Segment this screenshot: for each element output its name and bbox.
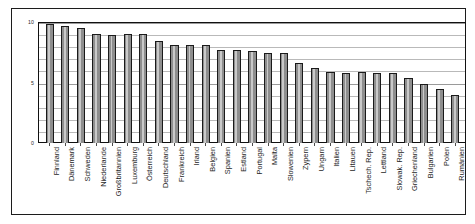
tick-mark (455, 143, 456, 146)
y-tick-label: 10 (28, 19, 34, 25)
x-axis-category-label: Spanien (225, 120, 232, 147)
x-label-slot: Großbritannien (104, 147, 120, 221)
x-label-slot: Zypern (292, 147, 308, 221)
x-label-slot: Slowak. Rep. (385, 147, 401, 221)
x-label-slot: Malta (260, 147, 276, 221)
x-axis-labels: FinnlandDänemarkSchwedenNiederlandeGroßb… (38, 147, 466, 221)
x-axis-category-label: Slowak. Rep. (396, 103, 403, 147)
tick-mark (158, 143, 159, 146)
y-tick-label: 5 (31, 80, 34, 86)
tick-mark (112, 143, 113, 146)
x-axis-category-label: Litauen (349, 123, 356, 147)
x-label-slot: Frankreich (167, 147, 183, 221)
x-label-slot: Luxemburg (120, 147, 136, 221)
x-label-slot: Dänemark (58, 147, 74, 221)
tick-mark (252, 143, 253, 146)
x-axis-category-label: Italien (334, 127, 341, 147)
x-axis-category-label: Lettland (380, 121, 387, 147)
x-label-slot: Finnland (42, 147, 58, 221)
x-label-slot: Slowenien (276, 147, 292, 221)
tick-mark (143, 143, 144, 146)
tick-mark (346, 143, 347, 146)
x-label-slot: Polen (432, 147, 448, 221)
tick-mark (377, 143, 378, 146)
x-label-slot: Estland (229, 147, 245, 221)
tick-mark (439, 143, 440, 146)
tick-mark (190, 143, 191, 146)
x-axis-category-label: Bulgarien (427, 116, 434, 147)
tick-mark (174, 143, 175, 146)
x-label-slot: Litauen (338, 147, 354, 221)
x-axis-category-label: Österreich (147, 113, 154, 147)
x-axis-category-label: Irland (193, 129, 200, 148)
x-label-slot: Portugal (245, 147, 261, 221)
x-axis-category-label: Schweden (84, 112, 91, 147)
x-label-slot: Griechenland (401, 147, 417, 221)
x-axis-category-label: Frankreich (178, 112, 185, 147)
x-axis-category-label: Estland (240, 122, 247, 147)
x-label-slot: Ungarn (307, 147, 323, 221)
x-axis-category-label: Finnland (53, 119, 60, 147)
x-axis-category-label: Großbritannien (115, 98, 122, 147)
tick-mark (221, 143, 222, 146)
x-label-slot: Schweden (73, 147, 89, 221)
tick-mark (392, 143, 393, 146)
x-axis-category-label: Dänemark (69, 113, 76, 147)
x-label-slot: Italien (323, 147, 339, 221)
x-label-slot: Tschech. Rep. (354, 147, 370, 221)
x-axis-category-label: Niederlande (100, 107, 107, 147)
tick-mark (49, 143, 50, 146)
tick-mark (283, 143, 284, 146)
tick-mark (361, 143, 362, 146)
x-label-slot: Irland (182, 147, 198, 221)
x-axis-category-label: Malta (271, 129, 278, 147)
tick-mark (408, 143, 409, 146)
x-label-slot: Niederlande (89, 147, 105, 221)
x-label-slot: Deutschland (151, 147, 167, 221)
tick-mark (314, 143, 315, 146)
y-tick-label: 0 (31, 140, 34, 146)
x-axis-category-label: Griechenland (412, 103, 419, 147)
x-label-slot: Österreich (136, 147, 152, 221)
x-axis-category-label: Rumänien (458, 113, 465, 147)
x-axis-category-label: Zypern (302, 124, 309, 147)
tick-mark (65, 143, 66, 146)
x-label-slot: Belgien (198, 147, 214, 221)
x-axis-category-label: Tschech. Rep. (365, 100, 372, 147)
tick-mark (127, 143, 128, 146)
x-axis-category-label: Deutschland (162, 106, 169, 147)
x-label-slot: Bulgarien (416, 147, 432, 221)
x-axis-category-label: Ungarn (318, 123, 325, 147)
tick-mark (80, 143, 81, 146)
tick-mark (96, 143, 97, 146)
x-label-slot: Spanien (214, 147, 230, 221)
x-axis-category-label-text: Rumänien (458, 147, 465, 181)
tick-mark (268, 143, 269, 146)
tick-mark (424, 143, 425, 146)
tick-mark (330, 143, 331, 146)
x-axis-category-label: Slowenien (287, 113, 294, 147)
tick-mark (236, 143, 237, 146)
chart-figure-frame: 0510 FinnlandDänemarkSchwedenNiederlande… (11, 8, 466, 215)
x-label-slot: Rumänien (447, 147, 463, 221)
y-axis: 0510 (12, 22, 38, 143)
x-axis-category-label: Polen (443, 128, 450, 147)
tick-mark (205, 143, 206, 146)
x-label-slot: Lettland (369, 147, 385, 221)
x-axis-category-label: Belgien (209, 122, 216, 147)
x-axis-category-label: Portugal (256, 119, 263, 147)
x-axis-category-label: Luxemburg (131, 110, 138, 147)
tick-mark (299, 143, 300, 146)
